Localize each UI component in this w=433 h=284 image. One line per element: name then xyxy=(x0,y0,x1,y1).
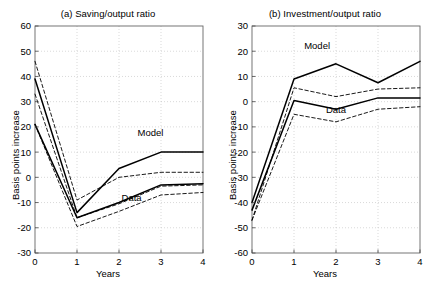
chart-panel-b: (b) Investment/output ratio -60-50-40-30… xyxy=(217,0,433,284)
y-tick-label: 50 xyxy=(20,46,31,57)
chart-panel-a: (a) Saving/output ratio -30-20-100102030… xyxy=(0,0,216,284)
y-tick-label: 20 xyxy=(237,46,248,57)
x-tick-label: 1 xyxy=(74,256,79,267)
panel-a-y-axis-label: Basis points increase xyxy=(10,110,21,200)
x-tick-label: 0 xyxy=(249,256,254,267)
x-tick-label: 3 xyxy=(158,256,163,267)
series-annotation-model: Model xyxy=(138,127,164,138)
figure-root: (a) Saving/output ratio -30-20-100102030… xyxy=(0,0,433,284)
x-tick-label: 2 xyxy=(116,256,121,267)
series-annotation-model: Model xyxy=(304,40,330,51)
x-tick-label: 1 xyxy=(291,256,296,267)
x-tick-label: 0 xyxy=(32,256,37,267)
y-tick-label: -30 xyxy=(17,247,31,258)
x-tick-label: 3 xyxy=(375,256,380,267)
y-tick-label: 60 xyxy=(20,20,31,31)
x-tick-label: 2 xyxy=(333,256,338,267)
y-tick-label: 40 xyxy=(20,71,31,82)
x-tick-label: 4 xyxy=(417,256,422,267)
y-tick-label: 30 xyxy=(20,96,31,107)
panel-b-plot: -60-50-40-30-20-10010203001234ModelData xyxy=(217,0,433,284)
y-tick-label: -50 xyxy=(234,222,248,233)
series-line xyxy=(35,124,203,226)
y-tick-label: -20 xyxy=(17,222,31,233)
panel-b-y-axis-label: Basis points increase xyxy=(227,110,238,200)
x-tick-label: 4 xyxy=(200,256,205,267)
panel-a-x-axis-label: Years xyxy=(0,268,216,279)
y-tick-label: -60 xyxy=(234,247,248,258)
series-annotation-data: Data xyxy=(122,192,143,203)
series-line xyxy=(35,79,203,213)
y-tick-label: 20 xyxy=(20,121,31,132)
y-tick-label: 30 xyxy=(237,20,248,31)
y-tick-label: 0 xyxy=(243,96,248,107)
panel-a-plot: -30-20-10010203040506001234ModelData xyxy=(0,0,216,284)
y-tick-label: 10 xyxy=(20,147,31,158)
y-tick-label: 0 xyxy=(26,172,31,183)
series-annotation-data: Data xyxy=(326,104,347,115)
y-tick-label: 10 xyxy=(237,71,248,82)
panel-b-x-axis-label: Years xyxy=(217,268,433,279)
